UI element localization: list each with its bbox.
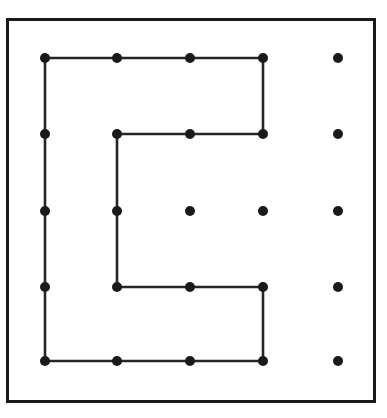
lattice-dot bbox=[333, 282, 343, 292]
lattice-dot bbox=[258, 282, 268, 292]
lattice-dot bbox=[40, 129, 50, 139]
lattice-dot bbox=[258, 356, 268, 366]
lattice-dot bbox=[185, 206, 195, 216]
lattice-dot bbox=[258, 206, 268, 216]
lattice-dot bbox=[258, 53, 268, 63]
lattice-dot bbox=[40, 282, 50, 292]
lattice-dot bbox=[333, 53, 343, 63]
lattice-dot bbox=[112, 282, 122, 292]
lattice-dot bbox=[112, 206, 122, 216]
lattice-dot bbox=[333, 356, 343, 366]
lattice-dot bbox=[258, 129, 268, 139]
lattice-dot bbox=[40, 356, 50, 366]
lattice-dot bbox=[112, 53, 122, 63]
lattice-dot bbox=[185, 53, 195, 63]
lattice-dot bbox=[333, 129, 343, 139]
lattice-dot bbox=[40, 206, 50, 216]
lattice-dot bbox=[112, 129, 122, 139]
lattice-dot bbox=[185, 356, 195, 366]
lattice-dot bbox=[185, 282, 195, 292]
lattice-figure bbox=[0, 0, 387, 418]
lattice-dot bbox=[185, 129, 195, 139]
lattice-dot bbox=[333, 206, 343, 216]
lattice-dot bbox=[112, 356, 122, 366]
lattice-dot bbox=[40, 53, 50, 63]
lattice-diagram-svg bbox=[0, 0, 387, 418]
